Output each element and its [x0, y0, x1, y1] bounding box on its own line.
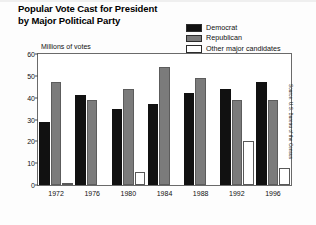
bar-other-1996 [279, 168, 290, 185]
x-axis-tick-label: 1980 [121, 190, 137, 197]
y-axis-tick-label: 60 [27, 51, 35, 58]
bar-other-1992 [243, 141, 254, 185]
chart-legend: DemocratRepublicanOther major candidates [186, 23, 302, 55]
legend-item: Republican [186, 34, 302, 44]
legend-item-label: Democrat [206, 24, 237, 32]
title-line-1: Popular Vote Cast for President [18, 3, 218, 15]
legend-swatch-icon [186, 45, 202, 53]
bar-republican-1972 [51, 82, 62, 185]
bar-democrat-1972 [39, 122, 50, 185]
x-axis-tick-label: 1972 [48, 190, 64, 197]
bar-republican-1992 [232, 100, 243, 185]
legend-item-label: Other major candidates [206, 45, 281, 53]
legend-item: Democrat [186, 23, 302, 33]
y-axis-tick-label: 40 [27, 94, 35, 101]
bar-group [255, 54, 291, 185]
bar-democrat-1992 [220, 89, 231, 185]
bar-democrat-1988 [184, 93, 195, 185]
y-axis-tick-label: 10 [27, 160, 35, 167]
x-axis-labels: 1972197619801984198819921996 [38, 190, 291, 202]
legend-item-label: Republican [206, 34, 242, 42]
x-axis-tick-label: 1996 [265, 190, 281, 197]
legend-swatch-icon [186, 24, 202, 32]
bar-group [38, 54, 74, 185]
bar-republican-1980 [123, 89, 134, 185]
bar-democrat-1980 [112, 109, 123, 185]
bar-group [219, 54, 255, 185]
bar-group [110, 54, 146, 185]
scan-edge-artifact [0, 0, 316, 2]
source-note: Source: U.S. Bureau of the Census [288, 84, 293, 159]
plot-area [38, 54, 291, 185]
x-axis-tick-label: 1976 [84, 190, 100, 197]
x-axis-tick-label: 1992 [229, 190, 245, 197]
bar-other-1980 [135, 172, 146, 185]
bar-group [74, 54, 110, 185]
y-axis-tick-label: 20 [27, 138, 35, 145]
y-axis-label: Millions of votes [41, 43, 91, 50]
bar-democrat-1984 [148, 104, 159, 185]
bar-group [146, 54, 182, 185]
legend-swatch-icon [186, 35, 202, 43]
x-axis-tick-label: 1984 [157, 190, 173, 197]
bar-republican-1984 [159, 67, 170, 185]
y-axis-tick-label: 50 [27, 72, 35, 79]
bar-democrat-1976 [75, 95, 86, 185]
bar-democrat-1996 [256, 82, 267, 185]
bar-republican-1976 [87, 100, 98, 185]
bar-other-1972 [62, 183, 73, 185]
bar-republican-1996 [268, 100, 279, 185]
y-axis-tick-label: 30 [27, 116, 35, 123]
x-axis-tick-label: 1988 [193, 190, 209, 197]
bar-republican-1988 [195, 78, 206, 185]
bar-group [183, 54, 219, 185]
